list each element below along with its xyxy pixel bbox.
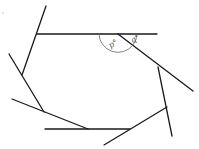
side-upper-left [22, 6, 46, 75]
heptagon-diagram: p° q° [0, 0, 199, 149]
side-lower-right [104, 107, 167, 145]
side-lower-left [12, 99, 88, 129]
stray-dot [2, 12, 3, 13]
side-upper-right [118, 34, 193, 91]
side-right [158, 67, 172, 136]
interior-angle-label: p° [107, 38, 119, 50]
